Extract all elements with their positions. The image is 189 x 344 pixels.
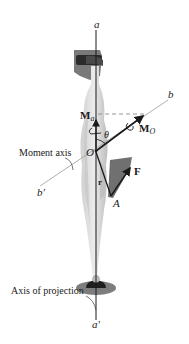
label-moment-axis: Moment axis bbox=[19, 147, 72, 158]
label-theta: θ bbox=[104, 129, 109, 140]
label-F: F bbox=[134, 165, 141, 177]
rotating-body bbox=[80, 66, 107, 278]
label-axis-of-projection: Axis of projection bbox=[11, 285, 84, 296]
label-Mo: MO bbox=[139, 122, 155, 136]
moment-axis-diagram: a a' b b' Moment axis Axis of projection… bbox=[0, 0, 189, 344]
label-r: r bbox=[98, 177, 102, 187]
axis-projection-leader bbox=[86, 296, 96, 310]
label-a-top: a bbox=[94, 18, 100, 30]
label-origin: O bbox=[86, 146, 94, 158]
force-patch bbox=[108, 157, 132, 198]
label-a-bottom: a' bbox=[92, 318, 101, 330]
origin-point bbox=[95, 150, 98, 153]
label-b: b bbox=[168, 88, 174, 100]
label-A: A bbox=[112, 197, 120, 209]
label-b-prime: b' bbox=[37, 186, 46, 198]
